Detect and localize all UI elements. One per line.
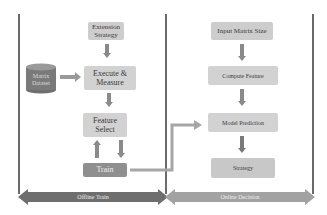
offline-left-border bbox=[18, 14, 20, 194]
offline-train-band: Offline Train bbox=[28, 191, 158, 203]
feature-select-box: Feature Select bbox=[83, 113, 127, 137]
arrow-up-train bbox=[94, 140, 100, 158]
arrow-down-3 bbox=[239, 44, 245, 62]
compute-feature-box: Compute Feature bbox=[208, 66, 278, 85]
arrow-down-2 bbox=[106, 93, 112, 107]
input-matrix-size-box: Input Matrix Size bbox=[211, 22, 273, 40]
online-decision-band: Online Decision bbox=[175, 191, 305, 203]
strategy-box: Strategy bbox=[211, 158, 275, 178]
extension-strategy-label: Extension Strategy bbox=[88, 23, 124, 39]
execute-measure-label: Execute & Measure bbox=[90, 69, 130, 87]
matrix-dataset-label-wrap: Matrix Dataset bbox=[24, 70, 58, 90]
matrix-dataset-label: Matrix Dataset bbox=[24, 73, 58, 87]
online-right-border bbox=[312, 14, 314, 194]
input-matrix-size-label: Input Matrix Size bbox=[217, 27, 266, 35]
arrow-right-dataset bbox=[60, 72, 82, 82]
extension-strategy-box: Extension Strategy bbox=[88, 22, 124, 40]
train-label: Train bbox=[96, 166, 113, 174]
online-decision-label: Online Decision bbox=[220, 194, 259, 200]
model-prediction-box: Model Prediction bbox=[208, 113, 278, 132]
offline-train-label: Offline Train bbox=[77, 194, 108, 200]
model-prediction-label: Model Prediction bbox=[222, 119, 264, 127]
arrow-down-feature bbox=[118, 140, 124, 158]
arrow-down-5 bbox=[239, 136, 245, 154]
strategy-label: Strategy bbox=[233, 164, 253, 172]
train-box: Train bbox=[83, 163, 127, 177]
execute-measure-box: Execute & Measure bbox=[84, 66, 136, 90]
compute-feature-label: Compute Feature bbox=[222, 72, 264, 80]
feature-select-label: Feature Select bbox=[90, 116, 120, 134]
arrow-train-to-prediction bbox=[130, 115, 204, 175]
arrow-down-1 bbox=[104, 44, 110, 58]
arrow-down-4 bbox=[239, 89, 245, 107]
